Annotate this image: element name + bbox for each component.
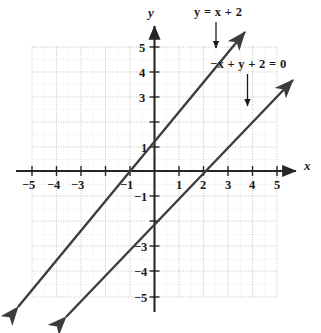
y-tick-label-3: 3 [139,92,145,105]
y-tick-label-4: 4 [139,67,145,80]
x-tick-label--5: −5 [22,179,35,192]
x-tick-label-1: 1 [176,179,182,192]
x-tick-label--3: −3 [71,179,84,192]
x-tick-label--4: −4 [47,179,60,192]
y-axis-label: y [148,6,154,19]
y-tick-label--1: −1 [134,191,147,204]
x-axis-label: x [304,159,311,172]
y-tick-label--3: −3 [134,241,147,254]
x-tick-label--1: −1 [120,179,133,192]
y-tick-label--5: −5 [134,292,147,305]
plot-line-minus-x-plus-y-plus-2-equals-0 [66,80,293,317]
x-tick-label-5: 5 [274,179,280,192]
y-tick-label--4: −4 [134,266,147,279]
equation-label-line-1: y = x + 2 [194,6,242,19]
equation-label-line-2: −x + y + 2 = 0 [210,58,286,71]
plot-line-y-equals-x-plus-2 [18,32,245,307]
coordinate-plane-svg [0,0,321,333]
x-tick-label-2: 2 [200,179,206,192]
x-tick-label-4: 4 [249,179,255,192]
x-tick-label-3: 3 [225,179,231,192]
y-tick-label-1: 1 [141,142,147,155]
graph-figure: y x y = x + 2 −x + y + 2 = 0 −5 −4 −3 −1… [0,0,321,333]
y-tick-label-5: 5 [139,42,145,55]
